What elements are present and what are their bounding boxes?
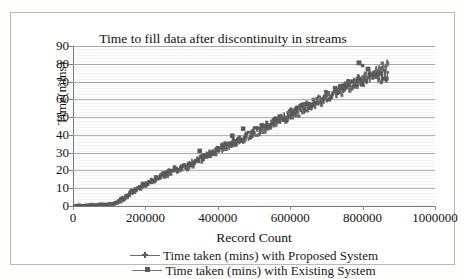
x-tick-mark xyxy=(218,206,219,210)
x-tick-label: 800000 xyxy=(343,210,382,225)
y-tick-mark xyxy=(69,99,73,100)
y-tick-label: 90 xyxy=(39,39,69,52)
x-tick-mark xyxy=(363,206,364,210)
x-tick-label: 600000 xyxy=(271,210,310,225)
x-axis-tick-labels: 02000004000006000008000001000000 xyxy=(73,210,435,228)
x-tick-label: 400000 xyxy=(198,210,237,225)
legend-item-existing[interactable]: Time taken (mins) with Existing System xyxy=(73,263,435,278)
x-axis-line xyxy=(73,206,435,207)
y-tick-label: 40 xyxy=(39,128,69,141)
legend-label-existing: Time taken (mins) with Existing System xyxy=(165,263,375,278)
y-tick-label: 70 xyxy=(39,75,69,88)
chart-frame: Time to fill data after discontinuity in… xyxy=(10,12,455,265)
y-tick-mark xyxy=(69,188,73,189)
x-tick-label: 1000000 xyxy=(412,210,458,225)
y-tick-label: 20 xyxy=(39,163,69,176)
legend-marker-cross-icon xyxy=(130,251,160,261)
y-tick-label: 30 xyxy=(39,146,69,159)
x-tick-mark xyxy=(73,206,74,210)
x-tick-mark xyxy=(290,206,291,210)
y-tick-mark xyxy=(69,82,73,83)
x-tick-mark xyxy=(435,206,436,210)
y-tick-label: 0 xyxy=(39,199,69,212)
y-tick-label: 50 xyxy=(39,110,69,123)
series-proposed xyxy=(73,60,389,206)
x-tick-mark xyxy=(145,206,146,210)
y-tick-mark xyxy=(69,153,73,154)
series-plot xyxy=(73,46,435,206)
data-series-canvas xyxy=(73,46,435,206)
x-tick-label: 0 xyxy=(70,210,77,225)
y-tick-mark xyxy=(69,64,73,65)
y-tick-mark xyxy=(69,170,73,171)
legend-item-proposed[interactable]: Time taken (mins) with Proposed System xyxy=(73,248,435,263)
legend-marker-square-icon xyxy=(132,266,162,276)
y-tick-mark xyxy=(69,135,73,136)
y-axis-tick-labels: 0102030405060708090 xyxy=(35,46,69,207)
y-tick-mark xyxy=(69,46,73,47)
y-tick-label: 60 xyxy=(39,92,69,105)
legend-label-proposed: Time taken (mins) with Proposed System xyxy=(163,248,378,263)
plot-area xyxy=(73,46,435,206)
x-axis-title: Record Count xyxy=(73,230,435,245)
x-tick-label: 200000 xyxy=(126,210,165,225)
y-tick-label: 80 xyxy=(39,57,69,70)
chart-legend: Time taken (mins) with Proposed System T… xyxy=(73,248,435,278)
y-tick-mark xyxy=(69,117,73,118)
y-tick-label: 10 xyxy=(39,181,69,194)
chart-title: Time to fill data after discontinuity in… xyxy=(73,31,373,46)
